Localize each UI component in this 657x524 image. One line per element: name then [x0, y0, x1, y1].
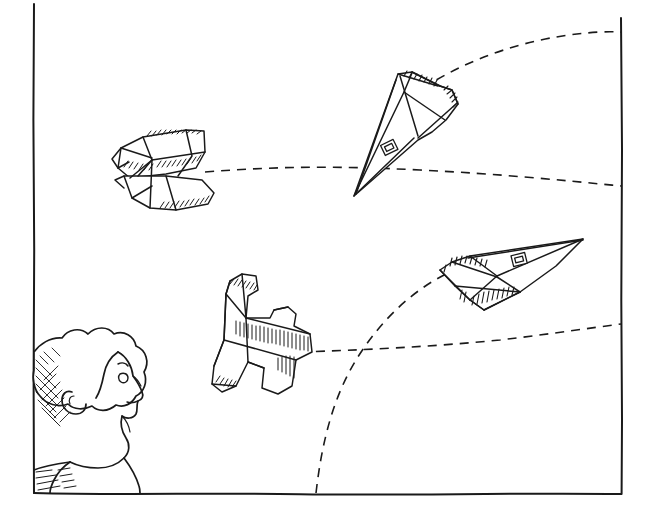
illustration-canvas: Child watching paper airplanes in flight… — [0, 0, 657, 524]
panel-border-right — [621, 18, 622, 493]
panel-border-left — [33, 4, 34, 493]
scene-drawing — [0, 0, 657, 524]
